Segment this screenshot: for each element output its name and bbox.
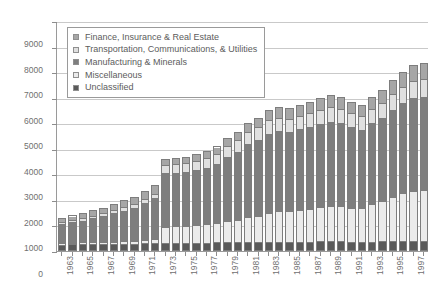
- bar-segment: [307, 128, 313, 210]
- bar-segment: [183, 173, 189, 227]
- bar-segment: [307, 103, 313, 114]
- x-axis-tick-label: 1989: [333, 256, 343, 275]
- bar-segment: [297, 117, 303, 131]
- legend-item-4[interactable]: Unclassified: [73, 81, 257, 94]
- bar-segment: [317, 111, 323, 125]
- bar-segment: [214, 148, 220, 156]
- y-axis-tick-label: 8000: [24, 65, 43, 75]
- bar-segment: [214, 224, 220, 244]
- legend-item-3[interactable]: Miscellaneous: [73, 69, 257, 82]
- bar-1976: [192, 154, 200, 251]
- bar-segment: [142, 244, 148, 250]
- bar-1990: [337, 97, 345, 251]
- bar-segment: [152, 244, 158, 250]
- bar-segment: [193, 155, 199, 162]
- bar-segment: [245, 124, 251, 133]
- legend-swatch-icon: [73, 34, 79, 40]
- bar-1974: [172, 158, 180, 251]
- bar-segment: [193, 162, 199, 171]
- legend-swatch-icon: [73, 72, 79, 78]
- bar-segment: [142, 192, 148, 200]
- bar-segment: [235, 243, 241, 250]
- bar-segment: [410, 192, 416, 243]
- bar-segment: [266, 214, 272, 243]
- bar-segment: [390, 242, 396, 250]
- bar-segment: [359, 131, 365, 209]
- x-axis-tick-label: 1963: [65, 256, 75, 275]
- bar-segment: [369, 124, 375, 205]
- x-axis-labels: 1963196519671969197119731975197719791981…: [56, 256, 428, 296]
- y-axis-tick-label: 5000: [24, 141, 43, 151]
- bar-segment: [173, 227, 179, 244]
- bar-segment: [297, 130, 303, 211]
- bar-segment: [338, 207, 344, 242]
- bar-segment: [183, 164, 189, 173]
- bar-segment: [359, 209, 365, 243]
- bar-segment: [421, 98, 427, 192]
- bar-segment: [276, 243, 282, 250]
- x-axis-tick-label: 1979: [230, 256, 240, 275]
- bar-1965: [79, 213, 87, 251]
- bar-1979: [223, 138, 231, 251]
- legend-item-label: Finance, Insurance & Real Estate: [85, 33, 219, 42]
- bar-segment: [245, 218, 251, 243]
- bar-1987: [306, 102, 314, 251]
- legend-swatch-icon: [73, 47, 79, 53]
- bar-segment: [317, 242, 323, 250]
- bar-segment: [80, 222, 86, 244]
- y-axis-tick-label: 4000: [24, 167, 43, 177]
- legend-swatch-icon: [73, 59, 79, 65]
- bar-segment: [131, 209, 137, 242]
- bar-segment: [338, 124, 344, 207]
- bar-1978: [213, 146, 221, 251]
- bar-segment: [224, 147, 230, 158]
- bar-1971: [141, 191, 149, 251]
- bar-segment: [328, 123, 334, 208]
- bar-segment: [276, 212, 282, 242]
- bar-segment: [400, 88, 406, 104]
- bar-1984: [275, 107, 283, 251]
- bar-segment: [235, 133, 241, 142]
- bar-segment: [276, 108, 282, 119]
- bar-segment: [297, 106, 303, 117]
- bar-segment: [162, 228, 168, 244]
- bar-segment: [379, 91, 385, 104]
- stacked-bar-chart: Number of Firms 010002000300040005000600…: [0, 0, 435, 298]
- legend-item-1[interactable]: Transportation, Communications, & Utilit…: [73, 44, 257, 57]
- bar-segment: [328, 207, 334, 242]
- bar-1997: [409, 65, 417, 251]
- bar-segment: [173, 244, 179, 250]
- bar-segment: [286, 133, 292, 212]
- legend-item-label: Miscellaneous: [85, 71, 142, 80]
- bar-segment: [255, 128, 261, 141]
- legend-item-label: Unclassified: [85, 83, 134, 92]
- bar-segment: [183, 244, 189, 250]
- legend-item-label: Manufacturing & Minerals: [85, 58, 187, 67]
- bar-segment: [348, 103, 354, 115]
- y-axis-tick-label: 6000: [24, 116, 43, 126]
- bar-segment: [162, 244, 168, 250]
- bar-segment: [100, 245, 106, 250]
- bar-1964: [68, 215, 76, 251]
- bar-segment: [276, 119, 282, 132]
- bar-segment: [338, 98, 344, 110]
- legend-item-0[interactable]: Finance, Insurance & Real Estate: [73, 31, 257, 44]
- bar-segment: [338, 242, 344, 250]
- bar-segment: [348, 128, 354, 209]
- legend-item-2[interactable]: Manufacturing & Minerals: [73, 56, 257, 69]
- bar-segment: [152, 199, 158, 240]
- bar-1991: [347, 102, 355, 251]
- bar-segment: [297, 243, 303, 250]
- bar-segment: [266, 111, 272, 122]
- legend-swatch-icon: [73, 85, 79, 91]
- bar-1967: [99, 208, 107, 251]
- bar-1995: [389, 80, 397, 251]
- bar-segment: [152, 186, 158, 195]
- bar-segment: [328, 242, 334, 250]
- bar-segment: [121, 245, 127, 250]
- bar-segment: [204, 159, 210, 169]
- bar-segment: [90, 245, 96, 250]
- bar-segment: [348, 209, 354, 243]
- y-axis-tick-label: 3000: [24, 192, 43, 202]
- y-axis-tick-label: 0: [38, 269, 43, 279]
